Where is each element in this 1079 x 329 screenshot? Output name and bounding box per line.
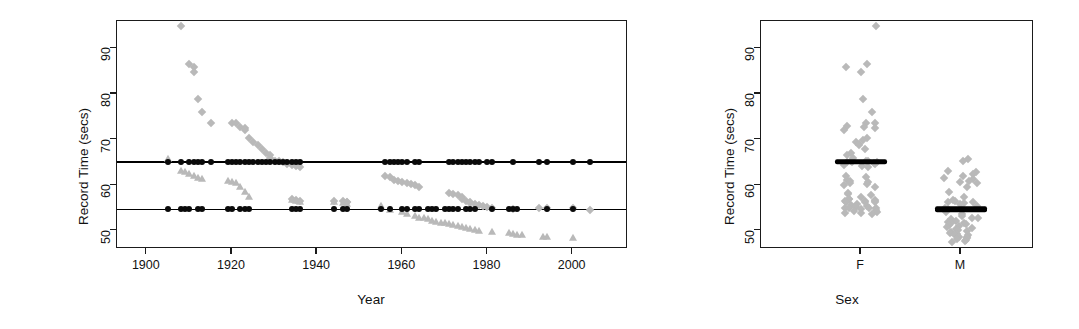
data-point-male-triangle [518,231,526,238]
x-tick-label: 2000 [558,258,586,272]
data-point-male-triangle [437,218,445,225]
right-y-axis-title: Record Time (secs) [722,108,737,225]
data-point-record-circle [404,159,410,165]
data-point-male-triangle [475,227,483,234]
data-point-male-triangle [296,197,304,204]
data-point-m-diamond [967,214,975,222]
data-point-record-circle [570,206,576,212]
data-point-record-circle [536,159,542,165]
data-point-record-circle [433,206,439,212]
x-tick-label: F [856,258,864,272]
x-tick-mark [315,248,316,254]
data-point-record-circle [297,206,303,212]
data-point-f-diamond [863,60,871,68]
data-point-female-diamond [198,108,206,116]
data-point-m-diamond [972,179,980,187]
data-point-record-circle [378,206,384,212]
data-point-female-diamond [585,206,593,214]
y-tick-label: 60 [99,184,113,198]
data-point-record-circle [331,206,337,212]
y-tick-label: 90 [743,47,757,61]
data-point-record-circle [489,159,495,165]
x-tick-mark [859,248,860,254]
data-point-record-circle [455,206,461,212]
data-point-record-circle [165,159,171,165]
y-tick-label: 50 [99,230,113,244]
x-tick-mark [230,248,231,254]
right-plot-area [761,21,1032,247]
data-point-record-circle [514,206,520,212]
panel-record-time-vs-year: Record Time (secs) Year 1900192019401960… [0,0,660,329]
left-plot-area [117,21,626,247]
data-point-f-diamond [868,108,876,116]
data-point-record-circle [416,206,422,212]
data-point-male-triangle [539,232,547,239]
y-tick-label: 70 [743,139,757,153]
panel-record-time-by-sex: Record Time (secs) Sex FM 5060708090 [660,0,1079,329]
y-tick-label: 60 [743,184,757,198]
data-point-f-diamond [842,62,850,70]
y-tick-label: 70 [99,139,113,153]
data-point-record-circle [476,159,482,165]
data-point-record-circle [165,206,171,212]
y-tick-label: 90 [99,47,113,61]
x-tick-label: 1900 [132,258,160,272]
figure-canvas: Record Time (secs) Year 1900192019401960… [0,0,1079,329]
data-point-record-circle [208,159,214,165]
x-tick-label: 1960 [387,258,415,272]
data-point-f-diamond [871,183,879,191]
data-point-record-circle [178,159,184,165]
y-tick-label: 50 [743,230,757,244]
left-x-axis-title: Year [357,292,384,307]
data-point-record-circle [297,159,303,165]
data-point-record-circle [344,206,350,212]
x-tick-label: 1980 [473,258,501,272]
x-tick-mark [486,248,487,254]
x-tick-mark [571,248,572,254]
data-point-f-diamond [857,68,865,76]
data-point-male-triangle [420,213,428,220]
data-point-record-circle [587,159,593,165]
data-point-f-diamond [872,21,880,29]
data-point-record-circle [199,159,205,165]
data-point-record-circle [472,206,478,212]
data-point-male-triangle [569,234,577,241]
data-point-female-diamond [534,204,542,212]
median-bar-m [935,207,987,213]
data-point-m-diamond [963,183,971,191]
data-point-record-circle [510,159,516,165]
data-point-f-diamond [859,95,867,103]
data-point-m-diamond [944,166,952,174]
data-point-female-diamond [194,95,202,103]
data-point-record-circle [544,206,550,212]
data-point-female-diamond [415,183,423,191]
data-point-record-circle [186,206,192,212]
data-point-record-circle [489,206,495,212]
x-tick-label: M [955,258,965,272]
data-point-female-diamond [206,119,214,127]
left-plot-box [116,20,627,248]
x-tick-mark [401,248,402,254]
data-point-record-circle [246,206,252,212]
data-point-record-circle [416,159,422,165]
x-tick-mark [959,248,960,254]
right-plot-box [760,20,1033,248]
y-tick-label: 80 [99,93,113,107]
data-point-male-triangle [488,227,496,234]
data-point-record-circle [229,206,235,212]
y-tick-label: 80 [743,93,757,107]
data-point-male-triangle [245,193,253,200]
data-point-record-circle [404,206,410,212]
data-point-record-circle [387,206,393,212]
data-point-female-diamond [189,68,197,76]
data-point-male-triangle [330,198,338,205]
data-point-f-diamond [871,123,879,131]
x-tick-mark [145,248,146,254]
data-point-f-diamond [857,209,865,217]
x-tick-label: 1920 [217,258,245,272]
x-tick-label: 1940 [302,258,330,272]
data-point-record-circle [570,159,576,165]
data-point-female-diamond [177,21,185,29]
data-point-record-circle [199,206,205,212]
data-point-male-triangle [458,223,466,230]
